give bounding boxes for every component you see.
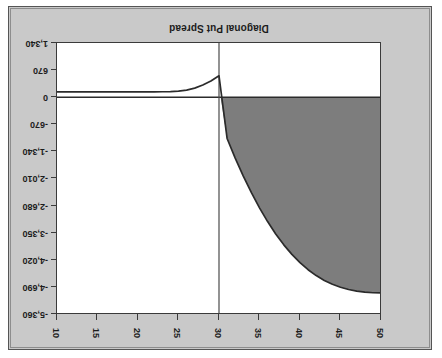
x-tick-label: 30 [213,323,223,343]
y-tick-label: -2,010 [22,175,48,185]
y-tick-mark [51,259,57,260]
y-tick-label: -670 [30,120,48,130]
y-tick-label: -1,340 [22,147,48,157]
rotated-chart-container: 504540353025201510-5,360-4,690-4,020-3,3… [8,6,432,350]
y-tick-mark [51,313,57,314]
x-tick-label: 50 [375,323,385,343]
x-tick-label: 25 [173,323,183,343]
y-tick-mark [51,123,57,124]
x-tick-mark [56,314,57,320]
x-tick-mark [340,314,341,320]
x-tick-label: 15 [92,323,102,343]
y-tick-label: 1,340 [25,39,48,49]
y-tick-mark [51,42,57,43]
y-tick-mark [51,96,57,97]
y-tick-label: 0 [43,93,48,103]
plot-border-bottom [56,42,381,43]
x-tick-label: 45 [335,323,345,343]
chart-data-layer [57,43,381,314]
chart-title: Diagonal Put Spread [57,23,381,34]
x-tick-mark [259,314,260,320]
y-tick-mark [51,69,57,70]
x-tick-mark [97,314,98,320]
y-tick-label: -2,680 [22,202,48,212]
x-tick-label: 10 [51,323,61,343]
y-tick-mark [51,232,57,233]
y-tick-mark [51,205,57,206]
x-tick-label: 40 [294,323,304,343]
x-tick-label: 20 [132,323,142,343]
x-tick-mark [178,314,179,320]
plot-border-left [380,42,381,314]
y-tick-label: 670 [33,66,48,76]
y-tick-label: -4,020 [22,256,48,266]
y-tick-label: -5,360 [22,310,48,320]
x-tick-mark [218,314,219,320]
x-tick-mark [380,314,381,320]
x-tick-mark [299,314,300,320]
figure-root: 504540353025201510-5,360-4,690-4,020-3,3… [0,0,442,358]
y-tick-label: -3,350 [22,229,48,239]
y-tick-mark [51,150,57,151]
y-tick-mark [51,286,57,287]
y-tick-mark [51,178,57,179]
x-tick-label: 35 [254,323,264,343]
x-tick-mark [137,314,138,320]
y-tick-label: -4,690 [22,283,48,293]
